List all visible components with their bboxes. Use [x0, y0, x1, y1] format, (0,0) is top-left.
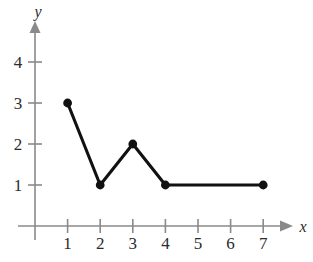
- x-tick-label: 1: [63, 234, 72, 253]
- data-point: [259, 181, 268, 190]
- y-tick-label: 4: [14, 53, 23, 72]
- data-point: [96, 181, 105, 190]
- x-tick-label: 6: [226, 234, 235, 253]
- x-tick-label: 3: [129, 234, 138, 253]
- y-tick-label: 2: [14, 135, 23, 154]
- x-tick-label: 7: [259, 234, 268, 253]
- y-tick-label: 1: [14, 176, 23, 195]
- data-point: [63, 99, 72, 108]
- x-axis-label: x: [298, 218, 306, 235]
- data-point-group: [63, 99, 267, 190]
- x-tick-label: 5: [194, 234, 203, 253]
- y-axis-arrow-icon: [30, 21, 41, 33]
- data-point: [161, 181, 170, 190]
- data-series-line: [68, 103, 264, 185]
- x-tick-label: 2: [96, 234, 105, 253]
- chart-container: 1 2 3 4 5 6 7 1 2 3 4 x y: [0, 0, 313, 262]
- x-tick-label: 4: [161, 234, 170, 253]
- data-point: [128, 140, 137, 149]
- y-axis-label: y: [32, 3, 42, 21]
- x-axis-arrow-icon: [280, 221, 293, 232]
- line-chart: 1 2 3 4 5 6 7 1 2 3 4 x y: [0, 0, 313, 262]
- y-tick-label: 3: [14, 94, 23, 113]
